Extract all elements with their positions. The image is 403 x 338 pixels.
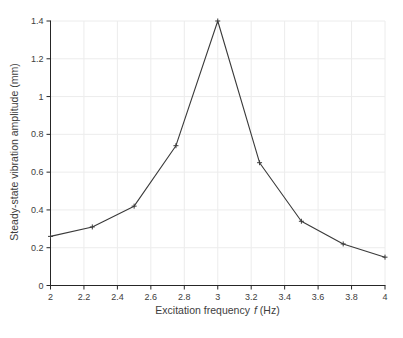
x-tick-label: 3 [215, 292, 220, 302]
y-tick-label: 1.4 [31, 16, 44, 26]
y-tick-label: 0.6 [31, 167, 44, 177]
y-tick-label: 1 [38, 92, 43, 102]
x-tick-label: 2.2 [78, 292, 91, 302]
x-tick-label: 4 [382, 292, 387, 302]
y-tick-label: 0.8 [31, 129, 44, 139]
x-tick-label: 3.2 [245, 292, 258, 302]
line-chart-canvas: 22.22.42.62.833.23.43.63.8400.20.40.60.8… [0, 0, 403, 338]
x-tick-label: 2.6 [145, 292, 158, 302]
y-tick-label: 0.4 [31, 205, 44, 215]
y-tick-label: 0.2 [31, 243, 44, 253]
data-point-marker [383, 255, 388, 260]
x-axis-label-units: (Hz) [260, 304, 280, 316]
x-tick-label: 2.4 [111, 292, 124, 302]
y-tick-label: 1.2 [31, 54, 44, 64]
x-tick-label: 3.6 [312, 292, 325, 302]
resonance-curve-figure: 22.22.42.62.833.23.43.63.8400.20.40.60.8… [0, 0, 403, 338]
data-point-marker [341, 241, 346, 246]
data-point-marker [215, 19, 220, 24]
x-tick-label: 3.4 [278, 292, 291, 302]
data-point-marker [48, 234, 53, 239]
data-point-marker [90, 224, 95, 229]
x-tick-label: 2 [48, 292, 53, 302]
y-axis-label: Steady-state vibration amplitude (mm) [8, 17, 20, 287]
x-axis-label-text: Excitation frequency [155, 304, 250, 316]
x-axis-label-symbol-f: f [254, 304, 257, 316]
x-tick-label: 2.8 [178, 292, 191, 302]
x-tick-label: 3.8 [345, 292, 358, 302]
y-tick-label: 0 [38, 281, 43, 291]
x-axis-label: Excitation frequencyf(Hz) [50, 304, 385, 316]
